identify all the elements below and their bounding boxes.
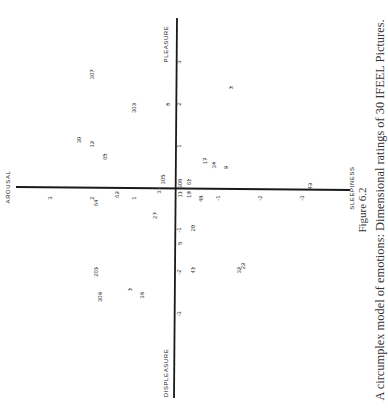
data-point: 201 bbox=[93, 266, 99, 277]
axes bbox=[16, 18, 350, 398]
data-point-label: 36 bbox=[139, 291, 145, 298]
data-point-label: 308 bbox=[177, 178, 183, 189]
data-point-label: 31 bbox=[156, 186, 162, 193]
data-point-label: 1 bbox=[127, 287, 133, 291]
arousal-tick-label: 2 bbox=[89, 196, 95, 200]
data-point-label: 27 bbox=[152, 212, 158, 219]
data-point: 61 bbox=[186, 178, 192, 185]
data-point: 48 bbox=[198, 195, 204, 202]
data-point: 9 bbox=[223, 165, 229, 169]
data-point-label: 11 bbox=[177, 191, 183, 198]
data-point: 11 bbox=[177, 191, 183, 198]
data-point-label: 43 bbox=[307, 182, 313, 189]
displeasure-label: DISPLEASURE bbox=[163, 349, 169, 398]
figure-caption: A circumplex model of emotions: Dimensio… bbox=[373, 19, 387, 400]
data-point: 307 bbox=[89, 69, 95, 80]
data-point-label: 41 bbox=[190, 266, 196, 273]
data-point-label: 20 bbox=[190, 224, 196, 231]
data-point: 17 bbox=[202, 157, 208, 164]
arousal-tick-label: 1 bbox=[131, 196, 137, 200]
figure-label: Figure 6.2 bbox=[356, 187, 368, 232]
data-point-label: 307 bbox=[89, 69, 95, 80]
data-point: 64 bbox=[93, 199, 99, 206]
data-point: 5 bbox=[177, 241, 183, 245]
data-point: 27 bbox=[152, 212, 158, 219]
arousal-tick-label: 3 bbox=[47, 196, 53, 200]
arousal-tick-label: -2 bbox=[257, 195, 263, 201]
data-point: 20 bbox=[190, 224, 196, 231]
data-point: 22 bbox=[240, 262, 246, 269]
circumplex-figure: PLEASURE DISPLEASURE AROUSAL SLEEPINESS … bbox=[0, 0, 388, 418]
pleasure-tick-label: -2 bbox=[176, 269, 182, 275]
data-point: 3 bbox=[228, 86, 234, 90]
data-point-label: 3 bbox=[228, 86, 234, 90]
data-point: 41 bbox=[190, 266, 196, 273]
data-point: 34 bbox=[211, 161, 217, 168]
data-point: 19 bbox=[186, 191, 192, 198]
arousal-tick-label: -1 bbox=[215, 195, 221, 201]
data-point: 305 bbox=[160, 174, 166, 185]
data-point-label: 22 bbox=[240, 262, 246, 269]
data-point: 308 bbox=[177, 178, 183, 189]
data-point: 31 bbox=[156, 186, 162, 193]
pleasure-axis-line bbox=[174, 18, 177, 398]
arousal-label: AROUSAL bbox=[5, 171, 11, 204]
data-point-label: 48 bbox=[198, 195, 204, 202]
data-point-label: 19 bbox=[186, 191, 192, 198]
data-point-label: 305 bbox=[160, 174, 166, 185]
data-point-label: 17 bbox=[202, 157, 208, 164]
data-point: 306 bbox=[97, 291, 103, 302]
pleasure-tick-label: -1 bbox=[176, 227, 182, 233]
data-point-label: 30 bbox=[76, 136, 82, 143]
data-point-label: 6 bbox=[165, 102, 171, 106]
data-point-label: 306 bbox=[97, 291, 103, 302]
data-point: 1 bbox=[127, 287, 133, 291]
data-point: 36 bbox=[139, 291, 145, 298]
pleasure-label: PLEASURE bbox=[163, 26, 169, 63]
data-point-label: 62 bbox=[114, 191, 120, 198]
data-points: 3073036330126530530861173494364623111194… bbox=[76, 69, 313, 302]
data-point-label: 201 bbox=[93, 266, 99, 277]
caption: Figure 6.2 A circumplex model of emotion… bbox=[356, 19, 387, 400]
data-point-label: 65 bbox=[102, 153, 108, 160]
axis-labels: PLEASURE DISPLEASURE AROUSAL SLEEPINESS bbox=[5, 26, 355, 398]
arousal-tick-label: -3 bbox=[299, 195, 305, 201]
data-point: 6 bbox=[165, 102, 171, 106]
data-point: 12 bbox=[89, 140, 95, 147]
data-point-label: 9 bbox=[223, 165, 229, 169]
data-point-label: 61 bbox=[186, 178, 192, 185]
data-point-label: 12 bbox=[89, 140, 95, 147]
data-point: 30 bbox=[76, 136, 82, 143]
data-point: 65 bbox=[102, 153, 108, 160]
pleasure-tick-label: -3 bbox=[176, 311, 182, 317]
data-point: 43 bbox=[307, 182, 313, 189]
sleepiness-label: SLEEPINESS bbox=[349, 166, 355, 209]
data-point-label: 303 bbox=[131, 102, 137, 113]
data-point: 62 bbox=[114, 191, 120, 198]
data-point-label: 64 bbox=[93, 199, 99, 206]
data-point: 303 bbox=[131, 102, 137, 113]
data-point-label: 5 bbox=[177, 241, 183, 245]
data-point-label: 34 bbox=[211, 161, 217, 168]
